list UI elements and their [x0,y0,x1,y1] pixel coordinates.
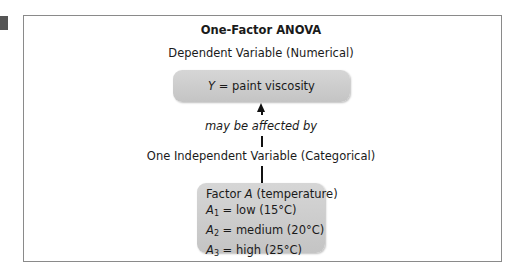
dependent-variable-label: Dependent Variable (Numerical) [0,46,522,60]
dependent-variable-box: Y = paint viscosity [173,70,350,102]
y-definition: = paint viscosity [215,79,315,93]
connector-line-upper [261,136,263,147]
arrow-shaft [261,110,263,115]
diagram-title: One-Factor ANOVA [0,23,522,37]
factor-heading: Factor A (temperature) [206,186,325,202]
level-symbol: A [206,243,214,257]
factor-level-2: A2 = medium (20°C) [206,222,325,242]
level-symbol: A [206,223,214,237]
factor-symbol: A [245,187,253,201]
factor-box: Factor A (temperature) A1 = low (15°C) A… [197,183,325,253]
factor-level-3: A3 = high (25°C) [206,242,325,262]
factor-suffix: (temperature) [253,187,338,201]
factor-prefix: Factor [206,187,245,201]
relation-label: may be affected by [0,119,522,133]
level-text: = medium (20°C) [219,223,324,237]
connector-line-lower [261,166,263,183]
level-text: = low (15°C) [219,203,297,217]
level-text: = high (25°C) [219,243,302,257]
level-symbol: A [206,203,214,217]
independent-variable-label: One Independent Variable (Categorical) [0,149,522,163]
factor-level-1: A1 = low (15°C) [206,202,325,222]
